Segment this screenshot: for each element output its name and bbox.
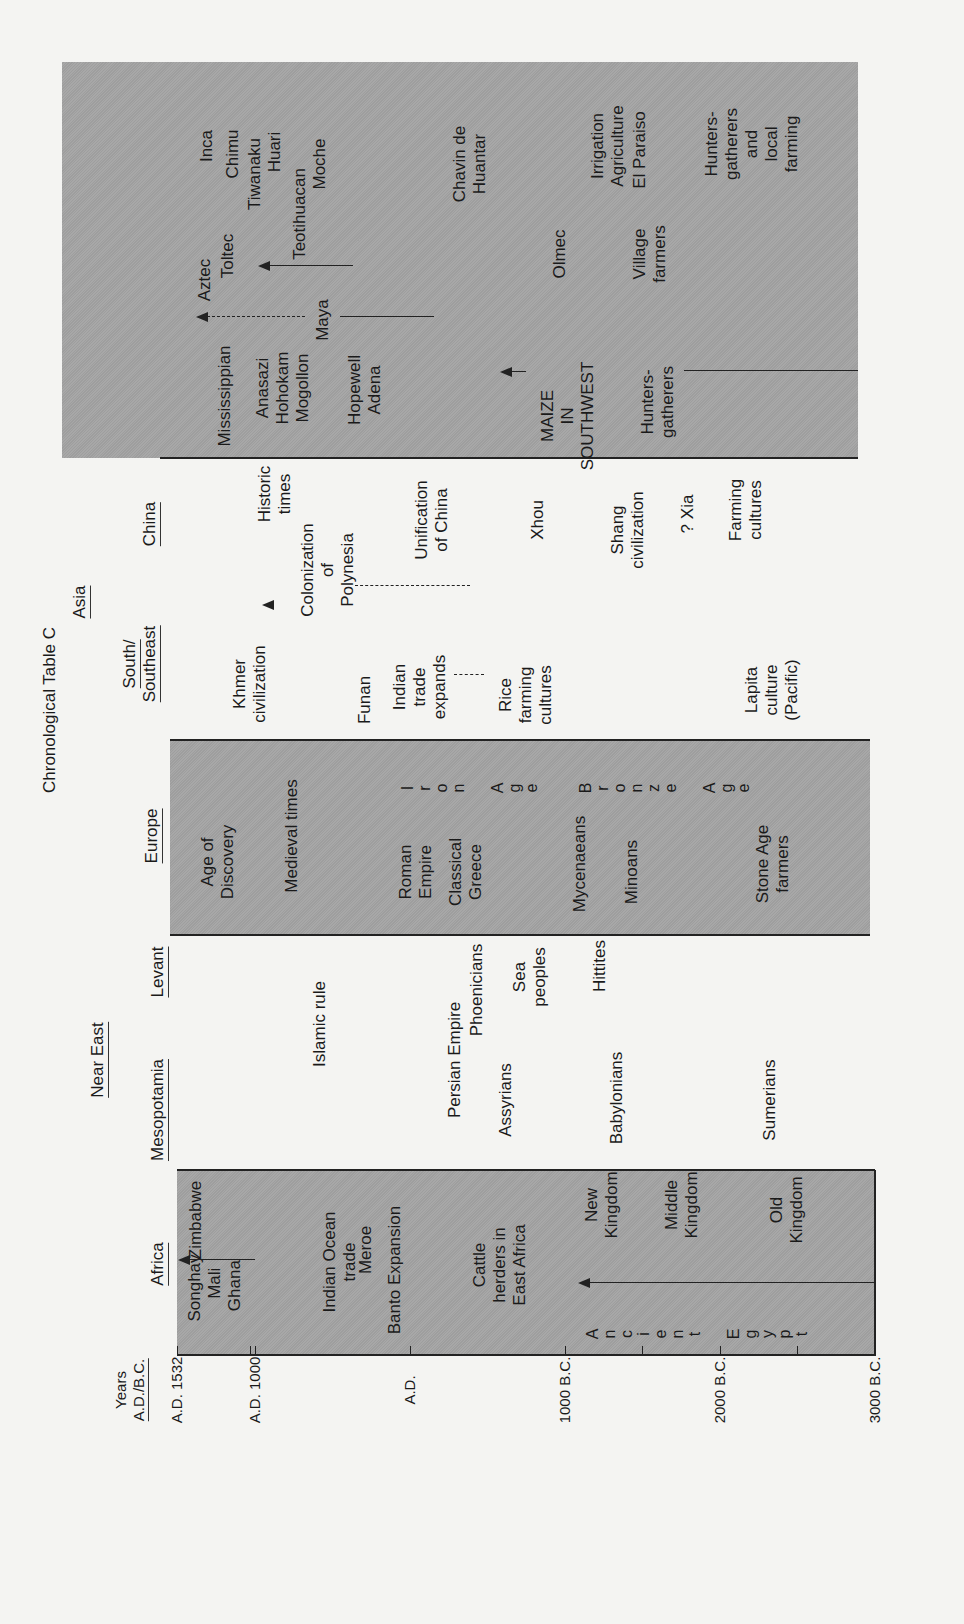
entry-unification-of-china: Unification of China xyxy=(412,480,452,559)
entry-middle-kingdom: Middle Kingdom xyxy=(662,1171,702,1238)
europe-left-line xyxy=(170,934,870,936)
entry-banto-expansion: Banto Expansion xyxy=(385,1206,405,1335)
egypt-timeline xyxy=(588,1282,875,1283)
region-header-asia: Asia xyxy=(70,585,90,618)
americas-left-line xyxy=(160,457,858,459)
entry-sea-peoples: Sea peoples xyxy=(510,947,550,1007)
entry-aztec: Aztec xyxy=(195,259,215,302)
entry-babylonians: Babylonians xyxy=(607,1052,627,1145)
column-header-south-southeast: South/ Southeast xyxy=(120,626,160,703)
axis-tick xyxy=(720,1346,721,1355)
entry-lapita-culture: Lapita culture (Pacific) xyxy=(742,659,802,720)
column-header-mesopotamia: Mesopotamia xyxy=(148,1059,168,1161)
entry-farming-cultures: Farming cultures xyxy=(726,479,766,541)
entry-songhay-mali-ghana: Songhay Mali Ghana xyxy=(185,1254,245,1321)
column-header-europe: Europe xyxy=(142,809,162,864)
entry-teotihuacan: Teotihuacan xyxy=(290,168,310,260)
column-header-levant: Levant xyxy=(148,946,168,997)
axis-tick xyxy=(255,1346,256,1355)
axis-tick xyxy=(410,1346,411,1355)
entry-huari: Huari xyxy=(265,132,285,173)
year-label: A.D. xyxy=(400,1375,420,1404)
arrow-up-icon xyxy=(262,600,274,610)
entry-meroe: Meroe xyxy=(356,1226,376,1274)
entry-indian-trade-expands: Indian trade expands xyxy=(390,655,450,719)
hunters-timeline xyxy=(684,370,858,371)
maya-dashed-line xyxy=(207,316,305,317)
arrow-up-icon xyxy=(500,367,512,377)
entry-hunters-gatherers-local-farming: Hunters- gatherers and local farming xyxy=(702,108,802,180)
year-label: 1000 B.C. xyxy=(555,1357,575,1424)
entry-colonization-of-polynesia: Colonization of Polynesia xyxy=(298,523,358,617)
entry-hopewell-adena: Hopewell Adena xyxy=(345,355,385,425)
entry-medieval-times: Medieval times xyxy=(282,779,302,892)
entry-age-of-discovery: Age of Discovery xyxy=(198,825,238,900)
africa-right-line xyxy=(177,1169,875,1171)
axis-tick xyxy=(565,1346,566,1355)
entry-persian-empire: Persian Empire xyxy=(445,1002,465,1118)
entry-mississippian: Mississippian xyxy=(215,345,235,446)
entry-village-farmers: Village farmers xyxy=(630,225,670,283)
page-title: Chronological Table C xyxy=(40,627,60,793)
arrow-up-icon xyxy=(258,261,270,271)
maize-timeline xyxy=(510,371,526,372)
entry-chavin-de-huantar: Chavin de Huantar xyxy=(450,126,490,203)
entry-ancient-egypt: A n c i e n t E g y p t xyxy=(585,1329,811,1340)
zimbabwe-timeline xyxy=(188,1259,255,1260)
entry-rice-farming-cultures: Rice farming cultures xyxy=(496,665,556,725)
year-label: A.D. 1532 xyxy=(167,1357,187,1424)
entry-roman-empire: Roman Empire xyxy=(396,845,436,900)
indian-trade-dashed-line xyxy=(454,674,484,675)
years-header: Years A.D./B.C. xyxy=(112,1359,148,1422)
year-label: 2000 B.C. xyxy=(710,1357,730,1424)
maya-timeline xyxy=(340,316,434,317)
entry-zimbabwe: Zimbabwe xyxy=(186,1181,206,1259)
entry-toltec: Toltec xyxy=(218,234,238,278)
entry-irrigation-agriculture: Irrigation Agriculture xyxy=(588,105,628,186)
entry-inca: Inca xyxy=(197,130,217,162)
europe-right-line xyxy=(170,739,870,741)
entry-classical-greece: Classical Greece xyxy=(446,838,486,906)
entry-maya: Maya xyxy=(313,299,333,341)
entry-historic-times: Historic times xyxy=(255,466,295,523)
axis-tick xyxy=(797,1346,798,1355)
entry-tiwanaku: Tiwanaku xyxy=(245,138,265,210)
entry-anasazi-hohokam-mogollon: Anasazi Hohokam Mogollon xyxy=(253,352,313,425)
entry-indian-ocean-trade: Indian Ocean trade xyxy=(320,1211,360,1312)
entry-new-kingdom: New Kingdom xyxy=(582,1171,622,1238)
entry-moche: Moche xyxy=(310,138,330,189)
entry-khmer-civilization: Khmer civilization xyxy=(230,645,270,722)
entry-iron-age: I r o n A g e xyxy=(400,783,541,794)
entry-stone-age-farmers: Stone Age farmers xyxy=(753,825,793,903)
column-header-china: China xyxy=(140,502,160,546)
entry-xhou: Xhou xyxy=(528,500,548,540)
polynesia-dashed-line xyxy=(355,585,470,586)
year-label: 3000 B.C. xyxy=(865,1357,885,1424)
entry-mycenaeans: Mycenaeans xyxy=(570,816,590,912)
entry-bronze-age: B r o n z e A g e xyxy=(578,783,753,794)
entry-chimu: Chimu xyxy=(223,129,243,178)
entry-shang-civilization: Shang civilization xyxy=(608,491,648,568)
africa-bottom-line xyxy=(874,1170,876,1356)
arrow-up-icon xyxy=(178,1255,190,1265)
entry-funan: Funan xyxy=(355,676,375,724)
entry-old-kingdom: Old Kingdom xyxy=(767,1176,807,1243)
teotihuacan-timeline xyxy=(268,265,353,266)
entry-sumerians: Sumerians xyxy=(760,1059,780,1140)
entry-hunters-gatherers-north: Hunters- gatherers xyxy=(638,366,678,438)
entry-islamic-rule: Islamic rule xyxy=(310,981,330,1067)
entry-olmec: Olmec xyxy=(550,229,570,278)
entry-el-paraiso: El Paraiso xyxy=(630,111,650,188)
axis-tick xyxy=(250,1346,251,1355)
region-header-near-east: Near East xyxy=(88,1022,108,1098)
time-axis-line xyxy=(177,1354,875,1356)
column-header-africa: Africa xyxy=(148,1242,168,1285)
entry-xia: ? Xia xyxy=(678,495,698,534)
axis-tick xyxy=(177,1346,178,1355)
axis-tick xyxy=(642,1346,643,1355)
entry-cattle-herders: Cattle herders in East Africa xyxy=(470,1224,530,1305)
entry-phoenicians: Phoenicians xyxy=(467,944,487,1037)
entry-hittites: Hittites xyxy=(590,940,610,992)
entry-minoans: Minoans xyxy=(622,840,642,904)
arrow-up-icon xyxy=(578,1278,590,1288)
